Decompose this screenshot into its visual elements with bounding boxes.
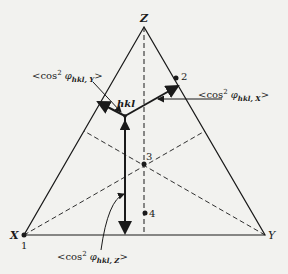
median-y-dashed — [84, 131, 265, 235]
annotation-cos-x: <cos2 φhkl, X> — [198, 88, 269, 103]
point-4 — [143, 211, 148, 216]
annotation-cos-z: <cos2 φhkl, Z> — [57, 250, 128, 265]
median-x-dashed — [24, 131, 205, 235]
point-1 — [22, 233, 27, 238]
point-label-2: 2 — [181, 71, 187, 82]
point-label-4: 4 — [149, 208, 155, 219]
vertex-label-x: X — [9, 229, 19, 242]
point-3 — [142, 162, 147, 167]
point-label-1: 1 — [21, 240, 27, 251]
hkl-label: hkl — [117, 98, 135, 109]
annotation-cos-y: <cos2 φhkl, Y> — [32, 69, 103, 84]
vertex-label-z: Z — [139, 12, 149, 25]
point-2 — [174, 76, 179, 81]
point-label-3: 3 — [146, 151, 152, 162]
ternary-diagram: Z X Y 1 2 3 4 hkl <cos2 φhkl, Y> <cos2 φ… — [0, 0, 288, 274]
leader-cos-z — [101, 194, 124, 250]
vertex-label-y: Y — [268, 229, 277, 242]
point-hkl — [123, 114, 127, 118]
